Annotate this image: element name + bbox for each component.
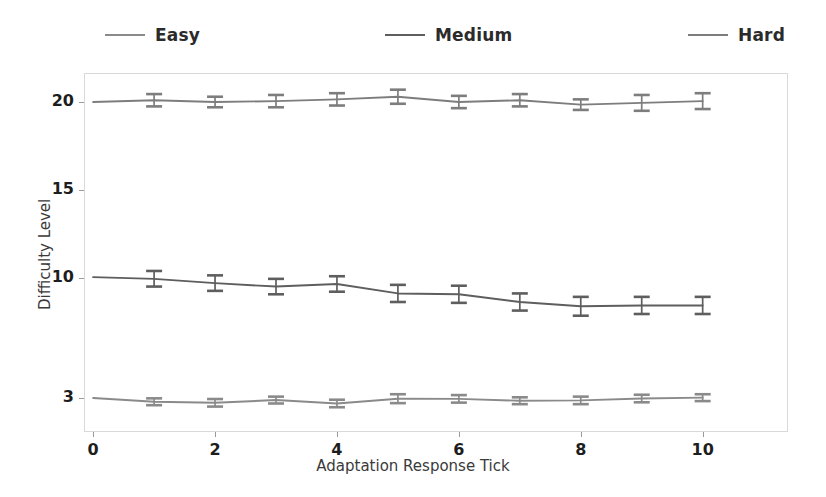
series-easy	[93, 394, 711, 407]
series-medium	[93, 271, 711, 316]
chart-figure: Easy Medium Hard Difficulty Level Adapta…	[0, 0, 826, 497]
series-hard	[93, 90, 711, 111]
series-layer	[0, 0, 826, 497]
